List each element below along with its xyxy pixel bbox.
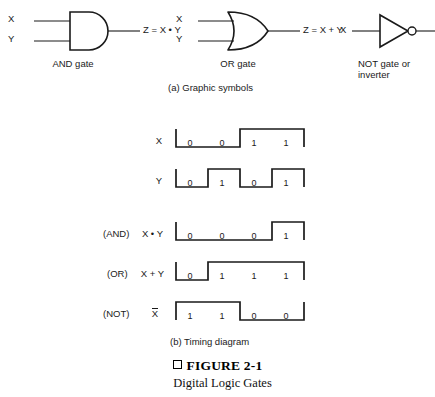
timing-row-3-signal-label: X + Y — [136, 268, 164, 279]
or-gate-input-x-label: X — [176, 14, 182, 25]
timing-row-1-digit-3: 1 — [279, 178, 293, 188]
figure-title: Digital Logic Gates — [0, 376, 435, 391]
figure-caption: FIGURE 2-1 Digital Logic Gates — [0, 358, 435, 391]
and-gate-caption: AND gate — [38, 58, 108, 69]
or-gate-output-expression: Z = X + Y — [303, 25, 343, 36]
timing-row-0-digit-3: 1 — [279, 138, 293, 148]
or-gate-caption: OR gate — [203, 58, 273, 69]
timing-row-0-digit-0: 0 — [183, 138, 197, 148]
timing-row-3-digit-1: 1 — [215, 271, 229, 281]
timing-row-3-digit-2: 1 — [247, 271, 261, 281]
timing-row-0-digit-1: 0 — [215, 138, 229, 148]
timing-row-0-digit-2: 1 — [247, 138, 261, 148]
timing-row-1-digit-1: 1 — [215, 178, 229, 188]
section-a-label: (a) Graphic symbols — [168, 82, 253, 93]
timing-row-0-signal-label: X — [140, 135, 162, 146]
not-gate-drawing — [352, 8, 435, 56]
timing-row-1-digit-2: 0 — [247, 178, 261, 188]
timing-row-4-signal-label: X — [152, 308, 158, 319]
timing-row-4-signal-label-wrap: X — [146, 308, 164, 319]
timing-row-2-digit-3: 1 — [279, 231, 293, 241]
or-gate-drawing — [188, 8, 300, 56]
timing-row-4-gate-label: (NOT) — [103, 308, 129, 319]
not-gate-input-x-label: X — [340, 25, 346, 36]
timing-row-4-digit-0: 1 — [183, 311, 197, 321]
and-gate-input-x-label: X — [8, 14, 14, 25]
timing-row-3-digit-0: 0 — [183, 271, 197, 281]
timing-row-2-digit-0: 0 — [183, 231, 197, 241]
and-gate-drawing — [22, 8, 140, 56]
and-gate-symbol — [22, 8, 140, 56]
timing-row-1-digit-0: 0 — [183, 178, 197, 188]
timing-row-2-digit-2: 0 — [247, 231, 261, 241]
timing-row-1-signal-label: Y — [140, 175, 162, 186]
figure-number-label: FIGURE 2-1 — [187, 358, 263, 373]
timing-row-3-digit-3: 1 — [279, 271, 293, 281]
or-gate-input-y-label: Y — [176, 34, 182, 45]
not-gate-caption-line2: inverter — [358, 69, 435, 80]
or-gate-symbol — [188, 8, 300, 56]
timing-row-4-digit-2: 0 — [247, 311, 261, 321]
square-bullet-icon — [173, 360, 182, 369]
and-gate-input-y-label: Y — [8, 34, 14, 45]
not-gate-symbol — [352, 8, 435, 56]
timing-row-4-digit-1: 1 — [215, 311, 229, 321]
timing-row-3-gate-label: (OR) — [107, 268, 128, 279]
timing-row-4-digit-3: 0 — [279, 311, 293, 321]
figure-page: X Y Z = X • Y AND gate X Y Z = X + Y OR … — [0, 0, 435, 397]
section-b-label: (b) Timing diagram — [170, 336, 249, 347]
timing-row-2-digit-1: 0 — [215, 231, 229, 241]
timing-row-2-signal-label: X • Y — [137, 228, 163, 239]
not-gate-caption-line1: NOT gate or — [358, 58, 435, 69]
timing-row-2-gate-label: (AND) — [103, 228, 129, 239]
figure-number-line: FIGURE 2-1 — [0, 358, 435, 374]
